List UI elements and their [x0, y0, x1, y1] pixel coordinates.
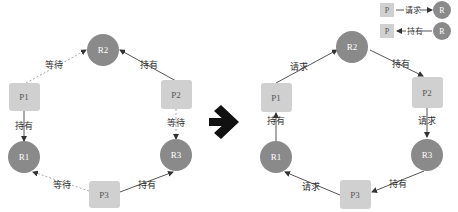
node-label: P1 [19, 92, 29, 102]
legend: P 请求 R P 持有 R [380, 1, 451, 40]
node-label: R1 [271, 152, 282, 162]
deadlock-diagram: 等待 持有 持有 等待 等待 持有 R2 P1 P2 R1 R3 P3 请求 持… [0, 0, 458, 212]
node-label: P2 [422, 88, 432, 98]
left-graph: 等待 持有 持有 等待 等待 持有 R2 P1 P2 R1 R3 P3 [8, 34, 192, 208]
edge-label: 请求 [290, 61, 308, 72]
transition-arrow-icon [209, 105, 239, 139]
node-label: R3 [422, 150, 433, 160]
legend-label: 持有 [407, 26, 423, 36]
node-label: P2 [171, 90, 181, 100]
legend-label: R [439, 6, 445, 15]
node-label: R3 [171, 150, 182, 160]
edge-label: 等待 [167, 117, 185, 128]
edge-label: 请求 [302, 181, 320, 192]
edge-label: 持有 [15, 120, 33, 131]
edge-label: 持有 [138, 179, 156, 190]
node-label: P3 [99, 190, 109, 200]
node-label: R2 [98, 45, 109, 55]
edge-label: 持有 [140, 59, 158, 70]
edge-label: 请求 [418, 115, 436, 126]
edge-label: 持有 [389, 178, 407, 189]
edge-label: 等待 [53, 179, 71, 190]
right-graph: 请求 持有 持有 请求 请求 持有 R2 P1 P2 R1 R3 P3 [260, 31, 443, 209]
node-label: R2 [347, 42, 358, 52]
edge-label: 持有 [267, 115, 285, 126]
node-label: P3 [350, 190, 360, 200]
edge-label: 等待 [45, 59, 63, 70]
legend-label: R [439, 27, 445, 36]
edge-label: 持有 [392, 58, 410, 69]
node-label: R1 [19, 152, 30, 162]
node-label: P1 [271, 93, 281, 103]
legend-label: P [385, 27, 390, 36]
legend-label: 请求 [405, 5, 421, 15]
legend-label: P [385, 6, 390, 15]
